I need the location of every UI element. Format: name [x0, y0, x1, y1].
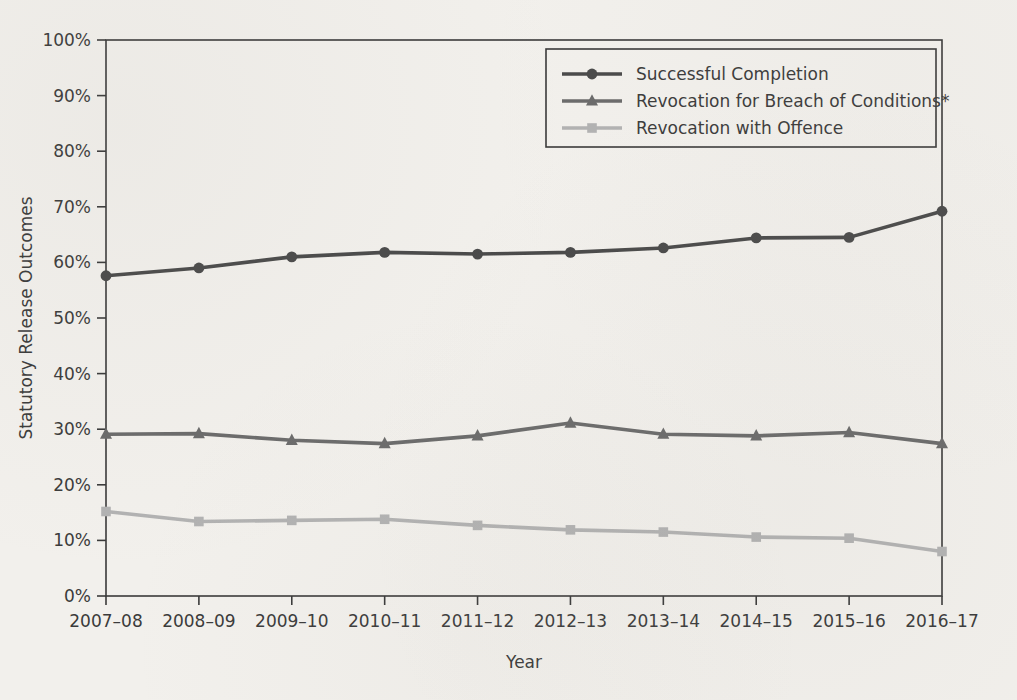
series-line: [106, 423, 942, 444]
series-line: [106, 511, 942, 551]
series-2: [100, 416, 948, 448]
x-tick-label: 2010–11: [348, 611, 421, 631]
y-tick-label: 50%: [53, 308, 91, 328]
series-1: [101, 206, 948, 281]
x-tick-label: 2015–16: [812, 611, 885, 631]
x-axis: 2007–082008–092009–102010–112011–122012–…: [69, 596, 978, 631]
data-point-marker: [194, 517, 204, 527]
y-tick-label: 0%: [64, 586, 91, 606]
x-tick-label: 2014–15: [720, 611, 793, 631]
y-tick-label: 40%: [53, 364, 91, 384]
data-point-marker: [751, 233, 762, 244]
legend-label: Revocation for Breach of Conditions*: [636, 91, 949, 111]
data-point-marker: [380, 514, 390, 524]
x-tick-label: 2013–14: [627, 611, 700, 631]
x-tick-label: 2009–10: [255, 611, 328, 631]
data-point-marker: [472, 249, 483, 260]
y-tick-label: 100%: [42, 30, 91, 50]
y-axis: 0%10%20%30%40%50%60%70%80%90%100%: [42, 30, 106, 606]
data-point-marker: [379, 247, 390, 258]
legend: Successful CompletionRevocation for Brea…: [546, 49, 949, 147]
data-point-marker: [286, 251, 297, 262]
data-point-marker: [101, 507, 111, 517]
x-tick-label: 2007–08: [69, 611, 142, 631]
y-tick-label: 80%: [53, 141, 91, 161]
series-line: [106, 211, 942, 275]
y-tick-label: 10%: [53, 530, 91, 550]
line-chart: 0%10%20%30%40%50%60%70%80%90%100% 2007–0…: [0, 0, 1017, 700]
y-axis-title: Statutory Release Outcomes: [16, 196, 36, 439]
data-point-marker: [751, 532, 761, 542]
chart-canvas: 0%10%20%30%40%50%60%70%80%90%100% 2007–0…: [0, 0, 1017, 700]
data-point-marker: [101, 270, 112, 281]
x-tick-label: 2012–13: [534, 611, 607, 631]
y-tick-label: 20%: [53, 475, 91, 495]
x-tick-label: 2016–17: [905, 611, 978, 631]
y-tick-label: 90%: [53, 86, 91, 106]
data-point-marker: [587, 123, 597, 133]
data-point-marker: [844, 232, 855, 243]
x-tick-label: 2008–09: [162, 611, 235, 631]
data-point-marker: [658, 243, 669, 254]
legend-label: Revocation with Offence: [636, 118, 843, 138]
data-point-marker: [937, 547, 947, 557]
x-tick-label: 2011–12: [441, 611, 514, 631]
y-tick-label: 30%: [53, 419, 91, 439]
data-point-marker: [193, 263, 204, 274]
data-point-marker: [937, 206, 948, 217]
x-axis-title: Year: [505, 652, 542, 672]
legend-label: Successful Completion: [636, 64, 829, 84]
data-point-marker: [844, 533, 854, 543]
series-layer: [100, 206, 948, 556]
series-3: [101, 507, 947, 557]
y-tick-label: 60%: [53, 252, 91, 272]
data-point-marker: [566, 525, 576, 535]
data-point-marker: [473, 521, 483, 531]
y-tick-label: 70%: [53, 197, 91, 217]
data-point-marker: [565, 247, 576, 258]
data-point-marker: [587, 69, 598, 80]
data-point-marker: [287, 516, 297, 526]
data-point-marker: [659, 527, 669, 537]
